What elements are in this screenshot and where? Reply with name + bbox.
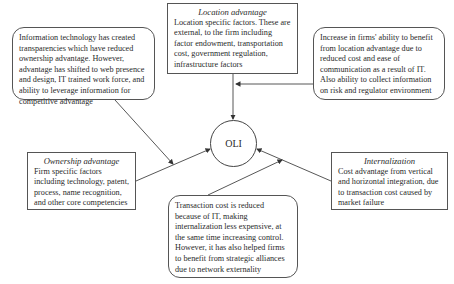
it-ownership-text: Information technology has created trans… [19,33,144,106]
oli-label: OLI [225,138,242,149]
internalization-text: Cost advantage from vertical and horizon… [338,167,439,208]
internalization-box: Internalization Cost advantage from vert… [331,152,448,210]
internalization-title: Internalization [338,156,441,167]
ownership-advantage-box: Ownership advantage Firm specific factor… [27,152,136,210]
it-ownership-box: Information technology has created trans… [12,27,155,100]
it-internalization-text: Transaction cost is reduced because of I… [175,201,285,274]
ownership-advantage-title: Ownership advantage [34,156,129,167]
oli-circle: OLI [210,120,257,167]
location-advantage-box: Location advantage Location specific fac… [167,3,298,74]
location-advantage-title: Location advantage [174,7,291,18]
location-advantage-text: Location specific factors. These are ext… [174,18,290,69]
it-internalization-box: Transaction cost is reduced because of I… [168,195,298,278]
it-location-text: Increase in firms' ability to benefit fr… [320,33,433,95]
ownership-advantage-text: Firm specific factors including technolo… [34,167,129,208]
it-location-box: Increase in firms' ability to benefit fr… [313,27,445,100]
